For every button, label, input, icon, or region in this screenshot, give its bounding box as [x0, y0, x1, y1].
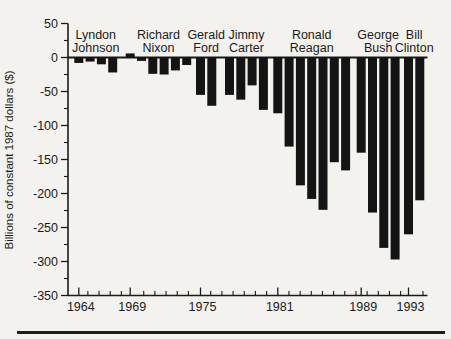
y-tick-label--350: -350: [33, 289, 58, 303]
y-tick-label--250: -250: [33, 221, 58, 235]
bar-1994: [415, 58, 424, 201]
bar-1964: [74, 58, 83, 63]
x-tick-label-1989: 1989: [349, 300, 377, 314]
y-tick-label-0: 0: [51, 51, 58, 65]
x-tick-label-1964: 1964: [67, 300, 95, 314]
x-tick-label-1981: 1981: [266, 300, 294, 314]
x-tick-label-1969: 1969: [118, 300, 146, 314]
bar-1990: [368, 58, 377, 213]
bar-1967: [108, 58, 117, 73]
bar-1978: [236, 58, 245, 100]
bar-1991: [379, 58, 388, 248]
bar-1980: [259, 58, 268, 110]
x-tick-label-1975: 1975: [189, 300, 217, 314]
y-tick-label--200: -200: [33, 187, 58, 201]
bar-1986: [330, 58, 339, 163]
president-label-lyndon-johnson-line2: Johnson: [72, 41, 119, 55]
bar-1974: [182, 58, 191, 65]
scanned-textbook-page: Billions of constant 1987 dollars ($) 50…: [0, 0, 451, 339]
president-label-george-bush-line2: Bush: [364, 41, 393, 55]
bar-1989: [357, 58, 366, 153]
deficit-bar-chart: Billions of constant 1987 dollars ($) 50…: [0, 0, 451, 339]
bar-1976: [207, 58, 216, 106]
president-label-ronald-reagan-line2: Reagan: [290, 41, 334, 55]
bar-1973: [171, 58, 180, 71]
chart-generated-content: 500-50-100-150-200-250-300-350LyndonJohn…: [17, 17, 445, 334]
bar-1981: [273, 58, 282, 114]
y-tick-label--150: -150: [33, 153, 58, 167]
y-tick-label--50: -50: [40, 85, 58, 99]
president-label-jimmy-carter-line2: Carter: [229, 41, 264, 55]
bar-1972: [160, 58, 169, 75]
page-bottom-rule: [17, 331, 445, 334]
bar-1969: [126, 53, 135, 57]
bar-1965: [86, 58, 95, 62]
bar-1985: [319, 58, 328, 210]
x-tick-label-1993: 1993: [397, 300, 425, 314]
bar-1993: [404, 58, 413, 235]
y-tick-label-50: 50: [44, 17, 58, 31]
y-axis-title: Billions of constant 1987 dollars ($): [3, 70, 15, 249]
y-tick-label--300: -300: [33, 255, 58, 269]
bar-1966: [97, 58, 106, 65]
bar-1979: [248, 58, 257, 86]
bar-1971: [148, 58, 157, 74]
bar-1982: [285, 58, 294, 147]
bar-1987: [341, 58, 350, 171]
bar-1970: [137, 58, 146, 61]
president-label-richard-nixon-line2: Nixon: [142, 41, 174, 55]
bar-1992: [391, 58, 400, 260]
bar-1977: [225, 58, 234, 95]
president-label-gerald-ford-line2: Ford: [193, 41, 219, 55]
bar-1984: [307, 58, 316, 199]
y-tick-label--100: -100: [33, 119, 58, 133]
bar-1975: [196, 58, 205, 95]
president-label-bill-clinton-line2: Clinton: [395, 41, 434, 55]
bar-1983: [296, 58, 305, 186]
